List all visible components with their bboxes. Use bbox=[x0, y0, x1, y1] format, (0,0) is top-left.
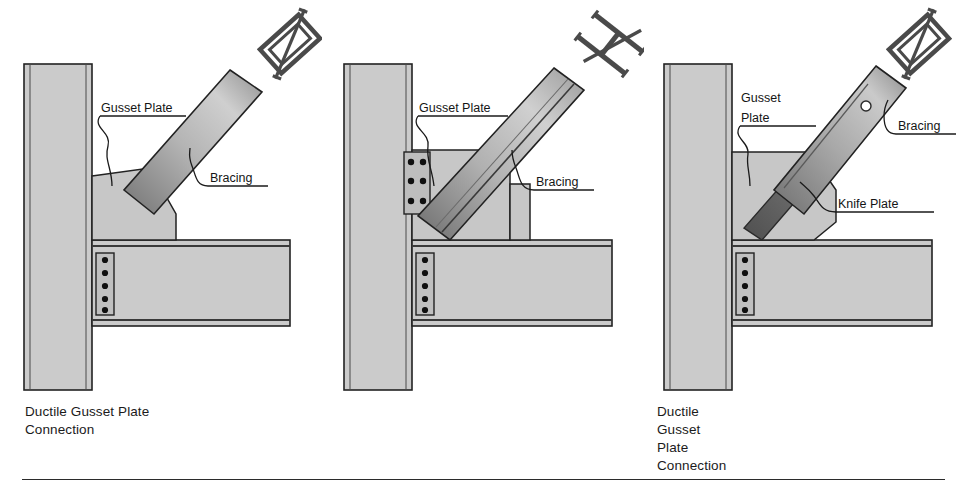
beam-shear-tab bbox=[96, 253, 114, 315]
wide-flange-section-icon bbox=[568, 2, 644, 86]
bolt bbox=[422, 257, 428, 263]
connection-detail-panel-2: Gusset Plate Bracing Ductile Gusset Plat… bbox=[322, 0, 644, 491]
hss-tube-section-icon bbox=[251, 6, 322, 81]
bolt-hole bbox=[861, 101, 871, 111]
bolt bbox=[422, 270, 428, 276]
bolt bbox=[420, 159, 426, 165]
bolt bbox=[408, 198, 414, 204]
panel-1-caption: Ductile Gusset Plate Connection bbox=[25, 403, 149, 439]
bolt bbox=[420, 198, 426, 204]
panel-1-drawing: Gusset Plate Bracing bbox=[0, 0, 322, 400]
bolt bbox=[422, 296, 428, 302]
bolt bbox=[422, 307, 428, 313]
beam-shear-tab bbox=[416, 253, 434, 315]
gusset-plate-label: Gusset Plate bbox=[101, 101, 173, 115]
bolt bbox=[408, 178, 414, 184]
bolt bbox=[742, 270, 748, 276]
bolt bbox=[742, 257, 748, 263]
bolt bbox=[422, 283, 428, 289]
column-member bbox=[344, 64, 412, 390]
bolt bbox=[742, 296, 748, 302]
knife-plate-label: Knife Plate bbox=[838, 197, 899, 211]
figure-separator-rule bbox=[22, 479, 945, 480]
bracing-label: Bracing bbox=[536, 175, 578, 189]
bolt bbox=[742, 283, 748, 289]
bracing-label: Bracing bbox=[210, 171, 252, 185]
connection-detail-panel-1: Gusset Plate Bracing Ductile Gusset Plat… bbox=[0, 0, 322, 491]
bolt bbox=[102, 283, 108, 289]
bolt bbox=[102, 296, 108, 302]
bolt bbox=[420, 178, 426, 184]
bolt bbox=[102, 270, 108, 276]
connection-detail-panel-3: Gusset Plate Bracing Knife Plate Ductile… bbox=[644, 0, 967, 491]
beam-member bbox=[92, 240, 290, 326]
hss-tube-section-icon bbox=[880, 6, 957, 81]
bolt bbox=[408, 159, 414, 165]
figure-sheet: Gusset Plate Bracing Ductile Gusset Plat… bbox=[0, 0, 967, 491]
column-member bbox=[24, 64, 92, 390]
bracing-member bbox=[774, 66, 906, 214]
bolt bbox=[742, 307, 748, 313]
gusset-plate-label-line-1: Gusset bbox=[741, 91, 781, 105]
panel-3-drawing: Gusset Plate Bracing Knife Plate bbox=[644, 0, 967, 400]
column-member bbox=[664, 64, 732, 390]
beam-shear-tab bbox=[736, 253, 754, 315]
bracing-label: Bracing bbox=[898, 119, 940, 133]
beam-member bbox=[732, 240, 932, 326]
gusset-plate-label-line-2: Plate bbox=[741, 111, 770, 125]
panel-2-drawing: Gusset Plate Bracing bbox=[322, 0, 644, 400]
beam-member bbox=[412, 240, 612, 326]
bolt bbox=[102, 307, 108, 313]
gusset-column-bolt-group bbox=[404, 152, 430, 214]
bolt bbox=[102, 257, 108, 263]
bracing-member bbox=[124, 70, 262, 214]
gusset-plate-label: Gusset Plate bbox=[419, 101, 491, 115]
